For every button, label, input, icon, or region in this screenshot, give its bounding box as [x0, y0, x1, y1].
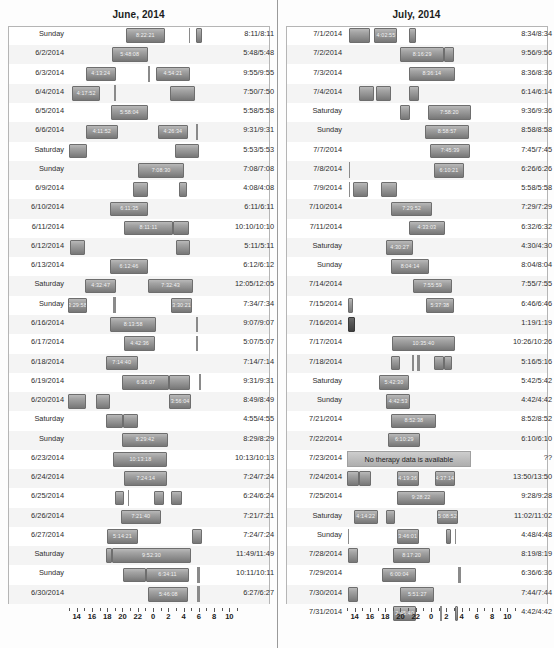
therapy-session-bar[interactable]: 4:17:52 — [72, 86, 100, 101]
therapy-session-bar[interactable] — [106, 548, 111, 563]
table-row[interactable]: Saturday11:02/11:024:14:225:08:52 — [278, 508, 554, 527]
table-row[interactable]: 7/16/20141:19/1:19 — [278, 315, 554, 334]
therapy-session-bar[interactable] — [409, 28, 416, 43]
therapy-session-bar[interactable]: 6:00:04 — [382, 568, 416, 583]
therapy-session-bar[interactable]: 8:11:11 — [124, 221, 173, 236]
table-row[interactable]: 7/14/20147:55/7:557:55:59 — [278, 276, 554, 295]
table-row[interactable]: 6/20/20148:49/8:493:56:04 — [0, 392, 277, 411]
therapy-session-bar[interactable]: 7:55:59 — [413, 279, 453, 294]
therapy-session-bar[interactable] — [349, 28, 370, 43]
table-row[interactable]: 6/9/20144:08/4:08 — [0, 180, 277, 199]
table-row[interactable]: 6/4/20147:50/7:504:17:52 — [0, 84, 277, 103]
therapy-session-bar[interactable]: 6:11:35 — [110, 202, 148, 217]
therapy-session-bar[interactable]: 3:30:21 — [171, 298, 192, 313]
therapy-session-bar[interactable]: 7:08:30 — [138, 163, 183, 178]
therapy-session-bar[interactable] — [68, 394, 86, 409]
therapy-session-bar[interactable] — [400, 105, 410, 120]
therapy-session-bar[interactable]: 3:56:04 — [169, 394, 191, 409]
table-row[interactable]: 7/28/20148:19/8:198:17:20 — [278, 546, 554, 565]
table-row[interactable]: 7/9/20145:58/5:58 — [278, 180, 554, 199]
table-row[interactable]: Sunday4:42/4:424:42:53 — [278, 392, 554, 411]
therapy-session-bar[interactable]: 4:42:36 — [124, 336, 155, 351]
therapy-session-bar[interactable]: 6:10:29 — [388, 433, 420, 448]
therapy-session-bar[interactable]: 8:29:42 — [122, 433, 169, 448]
table-row[interactable]: 7/22/20146:10/6:106:10:29 — [278, 431, 554, 450]
therapy-session-bar[interactable] — [381, 182, 398, 197]
table-row[interactable]: 7/8/20146:26/6:266:10:21 — [278, 161, 554, 180]
therapy-session-bar[interactable]: 5:08:52 — [437, 510, 458, 525]
therapy-session-bar[interactable] — [70, 240, 85, 255]
table-row[interactable]: 7/10/20147:29/7:297:29:52 — [278, 199, 554, 218]
therapy-session-bar[interactable]: 7:45:39 — [430, 144, 470, 159]
table-row[interactable]: Saturday5:42/5:425:42:30 — [278, 373, 554, 392]
table-row[interactable]: 7/7/20147:45/7:457:45:39 — [278, 142, 554, 161]
therapy-session-bar[interactable]: 5:46:08 — [148, 587, 188, 602]
therapy-session-bar[interactable]: 5:42:30 — [379, 375, 409, 390]
table-row[interactable]: 7/21/20148:52/8:528:52:38 — [278, 411, 554, 430]
table-row[interactable]: 6/12/20145:11/5:11 — [0, 238, 277, 257]
therapy-session-bar[interactable] — [347, 471, 359, 486]
therapy-session-bar[interactable]: 5:37:38 — [426, 298, 454, 313]
therapy-session-bar[interactable]: 3:46:01 — [397, 529, 419, 544]
table-row[interactable]: 6/13/20146:12/6:126:12:46 — [0, 257, 277, 276]
therapy-session-bar[interactable] — [444, 356, 452, 371]
therapy-session-bar[interactable]: 7:58:20 — [428, 105, 471, 120]
therapy-session-bar[interactable]: 9:52:30 — [112, 548, 191, 563]
therapy-session-bar[interactable] — [348, 548, 359, 563]
therapy-session-bar[interactable]: 4:19:36 — [397, 471, 419, 486]
therapy-session-bar[interactable] — [376, 86, 391, 101]
therapy-session-bar[interactable] — [444, 47, 454, 62]
table-row[interactable]: 7/18/20145:16/5:16 — [278, 354, 554, 373]
table-row[interactable]: 7/2/20149:56/9:568:16:29 — [278, 45, 554, 64]
therapy-session-bar[interactable] — [69, 144, 87, 159]
therapy-session-bar[interactable]: 4:02:55 — [374, 28, 397, 43]
therapy-session-bar[interactable]: 4:42:53 — [386, 394, 410, 409]
therapy-session-bar[interactable] — [169, 375, 190, 390]
table-row[interactable]: 6/23/201410:13/10:1310:13:18 — [0, 450, 277, 469]
table-row[interactable]: Sunday8:29/8:298:29:42 — [0, 431, 277, 450]
therapy-session-bar[interactable]: 8:22:21 — [126, 28, 166, 43]
therapy-session-bar[interactable] — [386, 510, 395, 525]
therapy-session-bar[interactable]: 8:52:38 — [391, 414, 436, 429]
therapy-session-bar[interactable] — [348, 587, 359, 602]
therapy-session-bar[interactable]: 7:24:14 — [124, 471, 168, 486]
table-row[interactable]: 6/16/20149:07/9:078:13:58 — [0, 315, 277, 334]
therapy-session-bar[interactable]: 7:14:40 — [106, 356, 138, 371]
therapy-session-bar[interactable] — [192, 529, 202, 544]
therapy-session-bar[interactable]: 4:54:21 — [156, 67, 190, 82]
therapy-session-bar[interactable]: 4:32:47 — [85, 279, 116, 294]
table-row[interactable]: Sunday10:11/10:116:34:11 — [0, 565, 277, 584]
table-row[interactable]: 7/29/20146:36/6:366:00:04 — [278, 565, 554, 584]
therapy-session-bar[interactable] — [175, 144, 199, 159]
therapy-session-bar[interactable] — [196, 28, 202, 43]
therapy-session-bar[interactable] — [353, 182, 368, 197]
therapy-session-bar[interactable]: 8:58:57 — [425, 125, 469, 140]
therapy-session-bar[interactable]: 8:16:29 — [400, 47, 444, 62]
table-row[interactable]: Sunday8:58/8:588:58:57 — [278, 122, 554, 141]
therapy-session-bar[interactable]: 4:26:34 — [158, 125, 189, 140]
therapy-session-bar[interactable]: 6:34:11 — [146, 568, 189, 583]
therapy-session-bar[interactable]: 7:29:52 — [391, 202, 431, 217]
therapy-session-bar[interactable]: 5:48:08 — [112, 47, 148, 62]
therapy-session-bar[interactable]: 8:13:58 — [110, 317, 156, 332]
therapy-session-bar[interactable]: 3:29:58 — [68, 298, 86, 313]
therapy-session-bar[interactable] — [359, 471, 371, 486]
table-row[interactable]: Sunday7:34/7:343:29:583:30:21 — [0, 296, 277, 315]
table-row[interactable]: 6/27/20147:24/7:245:14:21 — [0, 527, 277, 546]
therapy-session-bar[interactable]: 4:33:03 — [409, 221, 445, 236]
therapy-session-bar[interactable]: 4:14:22 — [354, 510, 378, 525]
therapy-session-bar[interactable]: 8:17:20 — [393, 548, 430, 563]
table-row[interactable]: Sunday8:04/8:048:04:14 — [278, 257, 554, 276]
therapy-session-bar[interactable]: 6:36:07 — [122, 375, 169, 390]
table-row[interactable]: 7/23/2014??No therapy data is available — [278, 450, 554, 469]
therapy-session-bar[interactable] — [171, 491, 182, 506]
therapy-session-bar[interactable]: 4:30:27 — [386, 240, 413, 255]
table-row[interactable]: Sunday7:08/7:087:08:30 — [0, 161, 277, 180]
table-row[interactable]: Saturday9:36/9:367:58:20 — [278, 103, 554, 122]
table-row[interactable]: 6/17/20145:07/5:074:42:36 — [0, 334, 277, 353]
therapy-session-bar[interactable] — [96, 394, 110, 409]
therapy-session-bar[interactable]: 4:13:24 — [86, 67, 116, 82]
therapy-session-bar[interactable] — [348, 298, 353, 313]
therapy-session-bar[interactable] — [348, 317, 355, 332]
therapy-session-bar[interactable] — [434, 356, 444, 371]
